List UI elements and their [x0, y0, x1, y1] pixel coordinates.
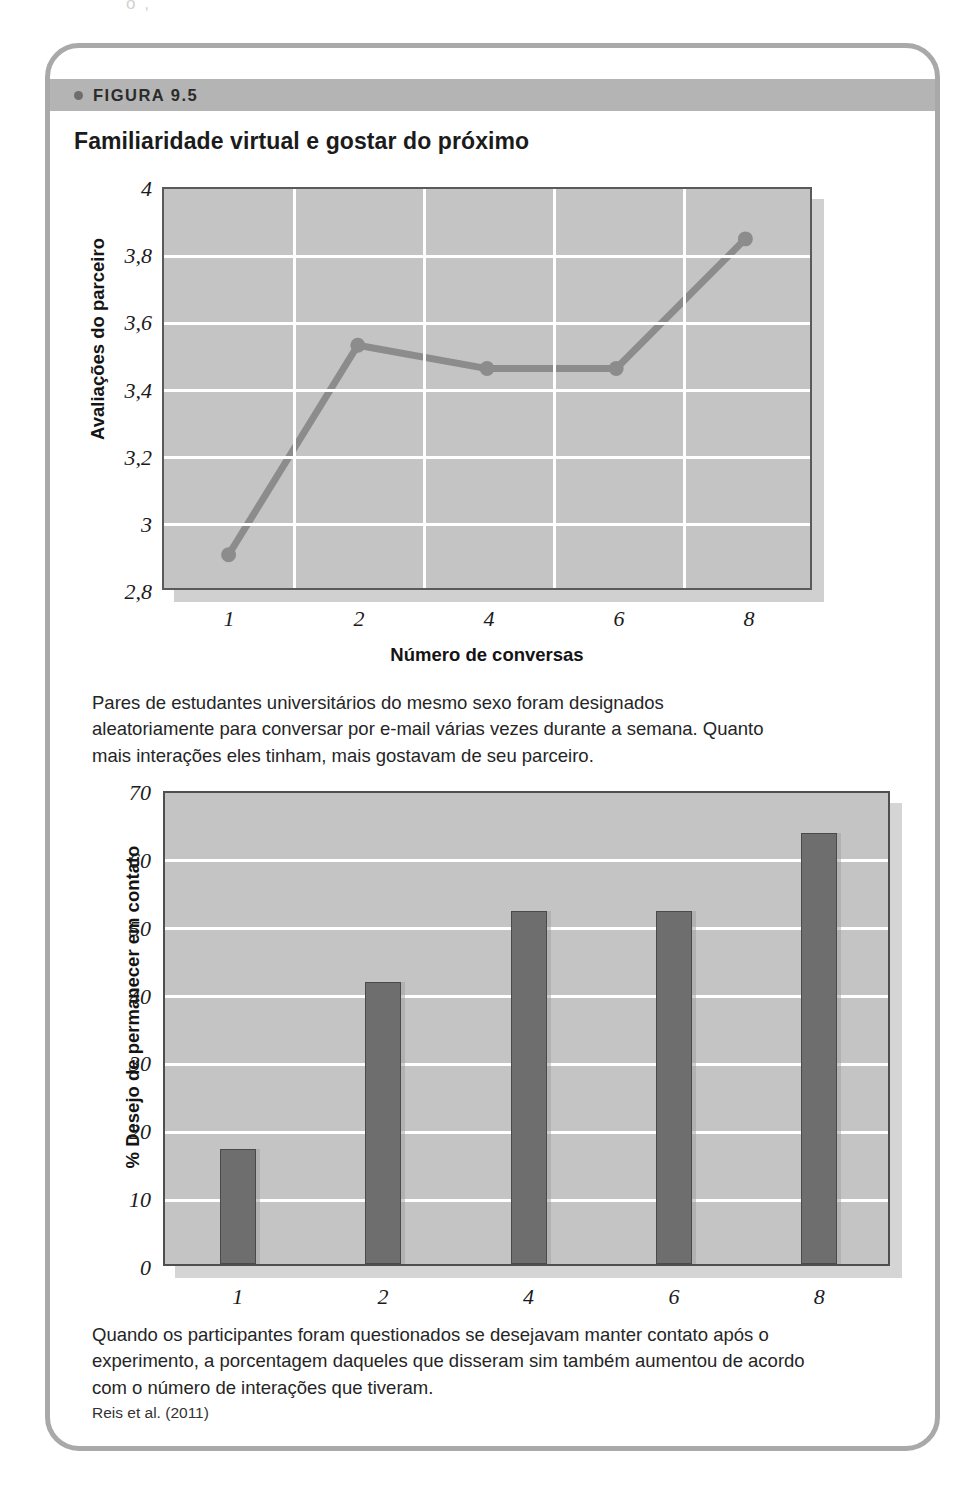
line-chart-gridline-h: [164, 523, 810, 526]
bar-chart-plot-area: 01020304050607012468: [163, 791, 890, 1266]
bar-chart-y-tick-label: 50: [129, 916, 151, 942]
line-chart-y-tick-label: 2,8: [125, 579, 153, 605]
line-chart-data-point: [609, 361, 624, 376]
line-chart-data-point: [480, 361, 495, 376]
line-chart-x-tick-label: 2: [354, 606, 365, 632]
bar-chart-bar: [220, 1149, 256, 1264]
bar-chart-y-tick-label: 70: [129, 780, 151, 806]
line-chart-y-tick-label: 3,8: [125, 243, 153, 269]
caption-line-chart: Pares de estudantes universitários do me…: [92, 690, 782, 769]
bar-chart-y-tick-label: 10: [129, 1187, 151, 1213]
bar-chart-y-tick-label: 60: [129, 848, 151, 874]
bar-chart-bar: [365, 982, 401, 1264]
bullet-dot-icon: [74, 91, 83, 100]
figure-header-band: FIGURA 9.5: [50, 79, 935, 111]
line-chart-y-tick-label: 3,6: [125, 310, 153, 336]
caption-bar-chart: Quando os participantes foram questionad…: [92, 1322, 832, 1401]
chart-title-line: Familiaridade virtual e gostar do próxim…: [74, 128, 529, 155]
line-chart-gridline-h: [164, 389, 810, 392]
bar-chart-y-tick-label: 40: [129, 984, 151, 1010]
line-chart: Avaliações do parceiro 2,833,23,43,63,84…: [60, 180, 920, 600]
line-chart-plot-area: 2,833,23,43,63,8412468: [162, 187, 812, 590]
bar-chart-y-tick-label: 30: [129, 1051, 151, 1077]
line-chart-y-axis-label: Avaliações do parceiro: [87, 209, 109, 469]
line-chart-x-tick-label: 4: [484, 606, 495, 632]
line-chart-y-tick-label: 3,4: [125, 378, 153, 404]
line-chart-x-tick-label: 1: [224, 606, 235, 632]
figure-number-label: FIGURA 9.5: [93, 86, 198, 105]
page-top-scan-fragment: o ,: [126, 0, 151, 14]
line-chart-gridline-v: [683, 189, 686, 588]
line-chart-x-tick-label: 6: [614, 606, 625, 632]
bar-chart-x-tick-label: 4: [523, 1284, 534, 1310]
bar-chart-y-tick-label: 20: [129, 1119, 151, 1145]
line-chart-y-tick-label: 3: [141, 512, 152, 538]
line-chart-gridline-h: [164, 456, 810, 459]
line-chart-x-axis-label: Número de conversas: [162, 644, 812, 666]
line-chart-series-path: [229, 239, 746, 555]
line-chart-gridline-v: [553, 189, 556, 588]
line-chart-gridline-v: [423, 189, 426, 588]
bar-chart-bar: [511, 911, 547, 1264]
line-chart-gridline-h: [164, 322, 810, 325]
line-chart-gridline-h: [164, 255, 810, 258]
bar-chart-gridline-h: [165, 859, 888, 862]
bar-chart-x-tick-label: 2: [378, 1284, 389, 1310]
bar-chart-bar: [801, 833, 837, 1264]
bar-chart-x-tick-label: 6: [668, 1284, 679, 1310]
bar-chart-x-tick-label: 1: [232, 1284, 243, 1310]
bar-chart: % Desejo de permanecer em contato 010203…: [60, 784, 920, 1284]
line-chart-gridline-v: [293, 189, 296, 588]
bar-chart-y-tick-label: 0: [140, 1255, 151, 1281]
line-chart-x-tick-label: 8: [744, 606, 755, 632]
line-chart-data-point: [221, 547, 236, 562]
line-chart-data-point: [738, 231, 753, 246]
line-chart-data-point: [350, 338, 365, 353]
line-chart-y-tick-label: 4: [141, 176, 152, 202]
figure-source-citation: Reis et al. (2011): [92, 1404, 209, 1422]
line-chart-y-tick-label: 3,2: [125, 445, 153, 471]
bar-chart-bar: [656, 911, 692, 1264]
bar-chart-x-tick-label: 8: [814, 1284, 825, 1310]
